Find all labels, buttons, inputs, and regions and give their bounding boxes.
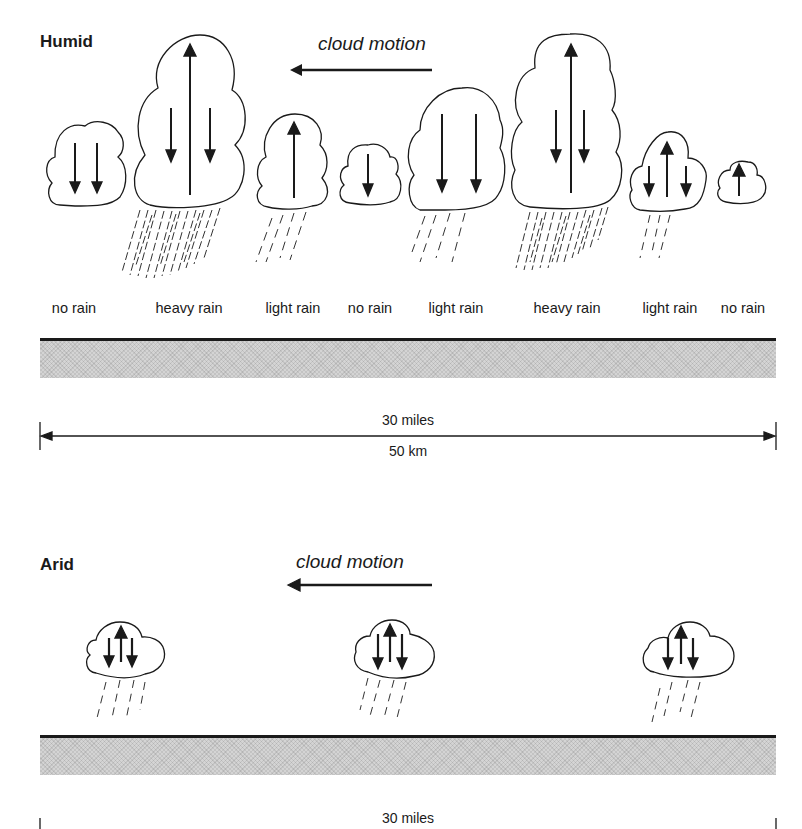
heavy-rain-streaks-2 xyxy=(516,207,608,270)
arid-rain-streaks-1 xyxy=(96,680,145,722)
light-rain-streaks-3 xyxy=(640,215,670,258)
arid-cloud-motion-label: cloud motion xyxy=(296,551,404,573)
cloud-heavy-rain-1 xyxy=(134,35,245,208)
arid-title: Arid xyxy=(40,555,74,575)
arid-rain-streaks-3 xyxy=(652,680,700,722)
rain-label: light rain xyxy=(429,300,484,316)
arid-cloud-3 xyxy=(643,622,734,677)
arid-cloud-1 xyxy=(87,622,165,678)
rain-label: no rain xyxy=(52,300,96,316)
rain-label: no rain xyxy=(348,300,392,316)
rain-label: no rain xyxy=(721,300,765,316)
arid-scale-miles: 30 miles xyxy=(382,810,434,826)
cloud-light-rain-3 xyxy=(630,132,706,212)
humid-scale-km: 50 km xyxy=(389,443,427,459)
arid-rain-streaks-2 xyxy=(360,678,406,722)
rain-label: heavy rain xyxy=(156,300,223,316)
light-rain-streaks-2 xyxy=(412,213,465,262)
rain-label: light rain xyxy=(643,300,698,316)
cloud-no-rain-3 xyxy=(718,161,766,203)
arid-motion-arrow xyxy=(288,579,432,591)
heavy-rain-streaks-1 xyxy=(122,208,220,278)
rain-label: heavy rain xyxy=(534,300,601,316)
cloud-no-rain-2 xyxy=(340,144,401,205)
light-rain-streaks-1 xyxy=(256,212,306,262)
humid-motion-arrow xyxy=(290,64,432,76)
arid-ground xyxy=(40,735,776,775)
rain-label: light rain xyxy=(266,300,321,316)
cloud-heavy-rain-2 xyxy=(511,34,621,209)
cloud-light-rain-1 xyxy=(257,114,327,209)
humid-scale-miles: 30 miles xyxy=(382,412,434,428)
humid-ground xyxy=(40,338,776,378)
cloud-no-rain-1 xyxy=(47,122,126,206)
cloud-light-rain-2 xyxy=(408,88,504,210)
arid-cloud-2 xyxy=(355,620,435,678)
